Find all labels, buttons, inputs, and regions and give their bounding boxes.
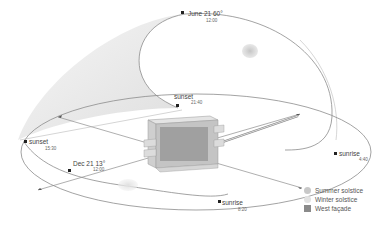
sun-path-diagram: June 21 60° 12:00 sunset 21:40 sunset 15… bbox=[0, 0, 388, 229]
legend-item-summer: Summer solstice bbox=[304, 186, 363, 195]
winter-sun-icon bbox=[118, 179, 138, 191]
june-21-time: 12:00 bbox=[206, 19, 217, 24]
legend-item-west-facade: West façade bbox=[304, 204, 363, 213]
dec-21-time: 12:00 bbox=[93, 168, 104, 173]
legend: Summer solstice Winter solstice West faç… bbox=[304, 186, 363, 213]
winter-swatch-icon bbox=[304, 196, 311, 203]
winter-sunset-label: sunset bbox=[29, 139, 48, 146]
summer-sun-icon bbox=[242, 44, 258, 58]
winter-sunrise-label: sunrise bbox=[222, 200, 243, 207]
winter-sunset-time: 15:30 bbox=[45, 147, 56, 152]
summer-sunrise-time: 4:40 bbox=[359, 158, 368, 163]
summer-swatch-icon bbox=[304, 187, 311, 194]
building-model bbox=[144, 116, 224, 172]
summer-sunset-time: 21:40 bbox=[191, 101, 202, 106]
winter-sunrise-time: 8:20 bbox=[238, 208, 247, 213]
june-21-label: June 21 60° bbox=[188, 11, 223, 18]
legend-item-winter: Winter solstice bbox=[304, 195, 363, 204]
summer-sunrise-label: sunrise bbox=[339, 151, 360, 158]
facade-swatch-icon bbox=[304, 205, 311, 212]
